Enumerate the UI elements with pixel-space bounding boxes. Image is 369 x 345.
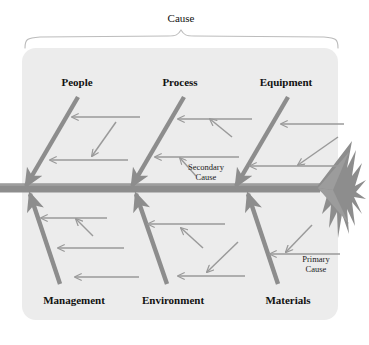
primary-cause-label-line1: Primary bbox=[302, 254, 330, 264]
fishbone-canvas: Cause People Process Equipment Managemen… bbox=[0, 0, 369, 345]
label-environment: Environment bbox=[142, 294, 204, 306]
diagram-title: Cause bbox=[168, 12, 195, 24]
primary-cause-label-line2: Cause bbox=[306, 264, 327, 274]
label-people: People bbox=[61, 76, 92, 88]
fish-spine bbox=[0, 184, 320, 193]
secondary-cause-label-line1: Secondary bbox=[188, 162, 225, 172]
label-materials: Materials bbox=[265, 294, 311, 306]
fishbone-diagram: Cause People Process Equipment Managemen… bbox=[0, 0, 369, 345]
secondary-cause-label-line2: Cause bbox=[196, 172, 217, 182]
label-process: Process bbox=[162, 76, 198, 88]
label-management: Management bbox=[43, 294, 105, 306]
cause-brace bbox=[25, 30, 338, 48]
label-equipment: Equipment bbox=[260, 76, 313, 88]
